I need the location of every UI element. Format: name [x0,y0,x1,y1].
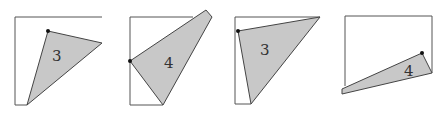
region-label: 3 [260,41,270,59]
vertex-dot [420,51,424,55]
panel-1: 3 [15,17,102,105]
shaded-region [27,31,102,105]
shaded-region [238,17,320,104]
panel-3: 3 [235,17,320,104]
folded-square-diagram: 3 4 3 4 [0,0,447,118]
vertex-dot [236,29,240,33]
region-label: 4 [164,54,174,72]
vertex-dot [46,29,50,33]
shaded-region [342,53,432,94]
panel-4: 4 [342,16,432,94]
panel-2: 4 [128,10,212,105]
vertex-dot [128,59,132,63]
region-label: 4 [404,62,414,80]
region-label: 3 [52,47,62,65]
